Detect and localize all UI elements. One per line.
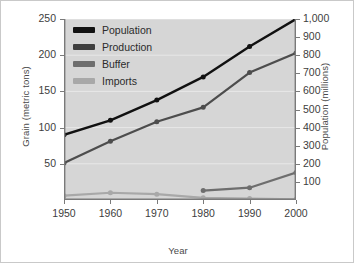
data-point-imports: [108, 190, 113, 195]
y-axis-left-title: Grain (metric tons): [20, 52, 31, 162]
y-axis-left-tick-label: 100: [12, 121, 56, 133]
x-axis-tick-label: 2000: [274, 207, 318, 219]
y-axis-right-tick-label: 900: [303, 30, 351, 42]
tick-mark: [296, 128, 300, 129]
y-axis-right-tick-label: 600: [303, 84, 351, 96]
x-axis-tick-label: 1980: [181, 207, 225, 219]
legend-swatch-icon: [73, 27, 95, 33]
tick-mark: [296, 200, 297, 204]
legend-item-imports[interactable]: Imports: [73, 74, 152, 88]
legend-item-buffer[interactable]: Buffer: [73, 57, 152, 71]
y-axis-right-tick-label: 700: [303, 66, 351, 78]
data-point-population: [201, 74, 206, 79]
y-axis-left-tick-label: 250: [12, 12, 56, 24]
y-axis-right-tick-label: 200: [303, 157, 351, 169]
tick-mark: [296, 164, 300, 165]
tick-mark: [60, 91, 64, 92]
y-axis-right-tick-label: 500: [303, 103, 351, 115]
legend-item-label: Population: [102, 24, 152, 36]
tick-mark: [60, 128, 64, 129]
tick-mark: [60, 164, 64, 165]
tick-mark: [296, 91, 300, 92]
series-line-imports: [64, 193, 296, 200]
data-point-production: [201, 105, 206, 110]
legend-swatch-icon: [73, 44, 95, 50]
data-point-population: [108, 118, 113, 123]
tick-mark: [250, 200, 251, 204]
data-point-population: [154, 98, 159, 103]
x-axis-tick-label: 1960: [88, 207, 132, 219]
x-axis-tick-label: 1990: [228, 207, 272, 219]
legend-item-label: Imports: [102, 75, 137, 87]
legend-swatch-icon: [73, 78, 95, 84]
data-point-production: [247, 70, 252, 75]
legend-swatch-icon: [73, 61, 95, 67]
chart-legend: PopulationProductionBufferImports: [73, 23, 152, 88]
data-point-imports: [154, 192, 159, 197]
x-axis-title: Year: [1, 245, 354, 256]
y-axis-right-tick-label: 400: [303, 121, 351, 133]
tick-mark: [296, 146, 300, 147]
data-point-buffer: [247, 185, 252, 190]
tick-mark: [296, 37, 300, 38]
y-axis-right-tick-label: 300: [303, 139, 351, 151]
tick-mark: [60, 55, 64, 56]
tick-mark: [296, 55, 300, 56]
tick-mark: [64, 200, 65, 204]
chart-figure: Grain (metric tons) Population (millions…: [0, 0, 354, 263]
y-axis-left-tick-label: 50: [12, 157, 56, 169]
tick-mark: [203, 200, 204, 204]
tick-mark: [296, 73, 300, 74]
y-axis-left-tick-label: 200: [12, 48, 56, 60]
x-axis-tick-label: 1970: [135, 207, 179, 219]
tick-mark: [110, 200, 111, 204]
tick-mark: [60, 19, 64, 20]
legend-item-label: Production: [102, 41, 152, 53]
x-axis-tick-label: 1950: [42, 207, 86, 219]
tick-mark: [157, 200, 158, 204]
legend-item-production[interactable]: Production: [73, 40, 152, 54]
y-axis-left-tick-label: 150: [12, 84, 56, 96]
data-point-production: [154, 119, 159, 124]
data-point-population: [247, 44, 252, 49]
y-axis-right-tick-label: 800: [303, 48, 351, 60]
data-point-buffer: [201, 188, 206, 193]
legend-item-population[interactable]: Population: [73, 23, 152, 37]
tick-mark: [296, 182, 300, 183]
y-axis-right-tick-label: 100: [303, 175, 351, 187]
legend-item-label: Buffer: [102, 58, 130, 70]
tick-mark: [296, 110, 300, 111]
data-point-production: [108, 139, 113, 144]
tick-mark: [296, 19, 300, 20]
y-axis-right-tick-label: 1,000: [303, 12, 351, 24]
